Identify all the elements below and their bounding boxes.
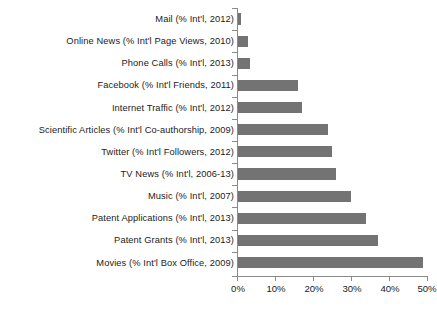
chart-row: Patent Grants (% Int'l, 2013) [0, 229, 436, 251]
x-axis-tick-label: 50% [417, 283, 436, 294]
bar [237, 235, 378, 246]
x-axis-tick-label: 30% [342, 283, 361, 294]
bar-track [237, 141, 436, 163]
y-axis-tick [232, 52, 237, 53]
bar-track [237, 119, 436, 141]
y-axis-tick [232, 119, 237, 120]
bar [237, 257, 423, 268]
chart-row: Scientific Articles (% Int'l Co-authorsh… [0, 119, 436, 141]
x-axis-tick [313, 276, 314, 281]
y-axis-line [237, 8, 238, 276]
y-axis-tick [232, 185, 237, 186]
y-axis-tick [232, 207, 237, 208]
bar-track [237, 74, 436, 96]
x-axis-tick-label: 0% [231, 283, 245, 294]
bar-track [237, 163, 436, 185]
bar-track [237, 30, 436, 52]
category-label: Patent Grants (% Int'l, 2013) [114, 229, 234, 251]
x-axis-tick [389, 276, 390, 281]
chart-row: Internet Traffic (% Int'l, 2012) [0, 97, 436, 119]
category-label: Facebook (% Int'l Friends, 2011) [97, 74, 234, 96]
category-label: Phone Calls (% Int'l, 2013) [122, 52, 234, 74]
chart-row: Online News (% Int'l Page Views, 2010) [0, 30, 436, 52]
y-axis-tick [232, 141, 237, 142]
bar-track [237, 252, 436, 274]
y-axis-tick [232, 163, 237, 164]
x-axis-tick [427, 276, 428, 281]
bar [237, 191, 351, 202]
y-axis-tick [232, 8, 237, 9]
chart-row: Twitter (% Int'l Followers, 2012) [0, 141, 436, 163]
bar-track [237, 52, 436, 74]
category-label: Patent Applications (% Int'l, 2013) [92, 207, 234, 229]
bar [237, 102, 302, 113]
bar-track [237, 207, 436, 229]
chart-row: Mail (% Int'l, 2012) [0, 8, 436, 30]
bar [237, 80, 298, 91]
bar [237, 168, 336, 179]
y-axis-tick [232, 30, 237, 31]
bar-track [237, 229, 436, 251]
category-label: Mail (% Int'l, 2012) [155, 8, 234, 30]
bar [237, 124, 328, 135]
x-axis-tick-label: 10% [266, 283, 285, 294]
x-axis-line [237, 276, 427, 277]
bar [237, 146, 332, 157]
y-axis-tick [232, 230, 237, 231]
chart-row: Music (% Int'l, 2007) [0, 185, 436, 207]
x-axis-tick [351, 276, 352, 281]
bar-track [237, 97, 436, 119]
category-label: Online News (% Int'l Page Views, 2010) [66, 30, 234, 52]
bar [237, 36, 248, 47]
category-label: Twitter (% Int'l Followers, 2012) [101, 141, 234, 163]
bar-track [237, 8, 436, 30]
chart-row: Movies (% Int'l Box Office, 2009) [0, 252, 436, 274]
chart-rows: Mail (% Int'l, 2012) Online News (% Int'… [0, 8, 436, 276]
chart-row: Facebook (% Int'l Friends, 2011) [0, 74, 436, 96]
category-label: TV News (% Int'l, 2006-13) [121, 163, 234, 185]
chart-row: Phone Calls (% Int'l, 2013) [0, 52, 436, 74]
chart-row: Patent Applications (% Int'l, 2013) [0, 207, 436, 229]
x-axis-tick [237, 276, 238, 281]
bar [237, 213, 366, 224]
bar [237, 58, 250, 69]
category-label: Internet Traffic (% Int'l, 2012) [112, 97, 234, 119]
y-axis-tick [232, 75, 237, 76]
bar-track [237, 185, 436, 207]
category-label: Music (% Int'l, 2007) [148, 185, 234, 207]
category-label: Scientific Articles (% Int'l Co-authorsh… [39, 119, 234, 141]
x-axis-tick [275, 276, 276, 281]
chart-row: TV News (% Int'l, 2006-13) [0, 163, 436, 185]
y-axis-tick [232, 252, 237, 253]
x-axis-tick-label: 40% [380, 283, 399, 294]
x-axis-tick-label: 20% [304, 283, 323, 294]
y-axis-tick [232, 97, 237, 98]
category-label: Movies (% Int'l Box Office, 2009) [96, 252, 234, 274]
